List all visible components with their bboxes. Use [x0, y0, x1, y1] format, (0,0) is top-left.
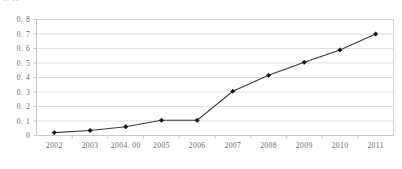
x-tick-label: 2005: [153, 141, 170, 150]
chart-figure: 0. 00 00. 10. 20. 30. 40. 50. 60. 70. 8 …: [0, 0, 402, 169]
y-tick-label: 0. 6: [17, 44, 31, 53]
x-tick-label: 2009: [296, 141, 313, 150]
data-point-marker: [302, 60, 306, 64]
x-tick-label: 2003: [82, 141, 99, 150]
data-point-marker: [124, 125, 128, 129]
data-markers-series1: [52, 32, 378, 135]
data-point-marker: [52, 130, 56, 134]
x-tick-label: 2006: [189, 141, 206, 150]
y-tick-label: 0. 3: [17, 88, 31, 97]
x-tick-label: 2010: [332, 141, 349, 150]
x-tick-label: 2007: [224, 141, 241, 150]
y-tick-label: 0. 5: [17, 59, 31, 68]
x-tickmarks-group: [72, 136, 358, 139]
y-tickmarks-group: [34, 20, 37, 136]
line-chart-canvas: 00. 10. 20. 30. 40. 50. 60. 70. 8 200220…: [0, 0, 402, 169]
x-tick-label: 2008: [260, 141, 277, 150]
y-tick-label: 0. 8: [17, 15, 31, 24]
data-point-marker: [88, 128, 92, 132]
y-tick-label: 0: [26, 131, 30, 140]
y-tick-label: 0. 1: [17, 117, 31, 126]
y-tick-label: 0. 7: [17, 30, 31, 39]
x-tick-label: 2004. 00: [111, 141, 141, 150]
data-point-marker: [266, 73, 270, 77]
y-axis-tick-labels: 00. 10. 20. 30. 40. 50. 60. 70. 8: [17, 15, 31, 140]
y-tick-label: 0. 2: [17, 102, 31, 111]
data-point-marker: [373, 32, 377, 36]
y-tick-label: 0. 4: [17, 73, 31, 82]
x-tick-label: 2002: [46, 141, 63, 150]
x-axis-tick-labels: 200220032004. 00200520062007200820092010…: [46, 141, 384, 150]
x-tick-label: 2011: [367, 141, 384, 150]
data-point-marker: [159, 118, 163, 122]
